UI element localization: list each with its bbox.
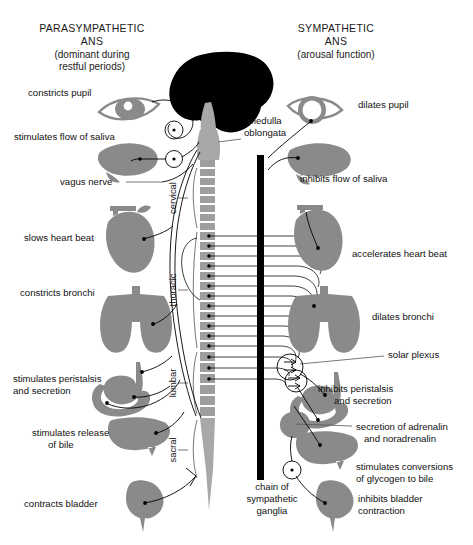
label-chain-line3: ganglia (257, 505, 289, 516)
gallbladder-left (116, 389, 134, 403)
lung-right-right-lobe (328, 294, 360, 353)
label-inhibits-peristalsis-line1: inhibits peristalsis (318, 383, 393, 394)
right-header-title-line1: SYMPATHETIC (298, 22, 375, 34)
bladder-shape-right (316, 480, 353, 532)
right-heart (294, 202, 343, 271)
right-eye-group (288, 96, 342, 124)
label-chain-line1: chain of (255, 481, 289, 492)
left-lungs (100, 286, 172, 353)
label-dilates-bronchi: dilates bronchi (372, 311, 434, 322)
left-bladder (126, 480, 163, 532)
left-header-sub-line1: (dominant during (54, 49, 129, 60)
spine-label-lumbar: lumbar (167, 369, 178, 398)
brain-group (169, 52, 273, 160)
label-vagus-nerve: vagus nerve (60, 176, 112, 187)
liver-shape-left (108, 417, 170, 456)
left-header-title-line1: PARASYMPATHETIC (39, 22, 145, 34)
left-header-title-line2: ANS (81, 35, 104, 47)
spine-label-sacral: sacral (167, 437, 178, 462)
label-medulla-line2: oblongata (244, 127, 287, 138)
right-lungs (288, 286, 360, 353)
sympathetic-chain-bar (257, 155, 264, 480)
right-eye-pupil-dilated (303, 101, 322, 120)
right-header: SYMPATHETIC ANS (arousal function) (297, 22, 374, 60)
left-digestive-group (92, 362, 150, 417)
solar-plexus-ganglia (277, 354, 307, 392)
left-liver (108, 417, 170, 456)
lung-left-lobe (100, 294, 132, 353)
label-accelerates-heart: accelerates heart beat (352, 248, 447, 259)
label-stimulates-bile-line2: of bile (48, 439, 74, 450)
label-inhibits-bladder-line2: contraction (358, 505, 405, 516)
label-stimulates-saliva: stimulates flow of saliva (14, 131, 115, 142)
spine-label-cervical: cervical (167, 182, 178, 214)
heart-shape-right (294, 202, 343, 271)
medulla-bulge (197, 130, 220, 160)
label-stimulates-peristalsis-line2: and secretion (13, 385, 71, 396)
left-eye-group (99, 98, 159, 120)
bladder-shape-left (126, 480, 163, 532)
label-adrenalin-line1: secretion of adrenalin (356, 421, 448, 432)
right-bladder (316, 480, 353, 532)
right-liver (296, 431, 358, 470)
left-header: PARASYMPATHETIC ANS (dominant during res… (39, 22, 145, 72)
label-inhibits-peristalsis-line2: and secretion (334, 395, 392, 406)
label-inhibits-bladder-line1: inhibits bladder (358, 493, 423, 504)
label-medulla-line1: medulla (248, 115, 282, 126)
liver-shape-right (296, 431, 358, 470)
label-dilates-pupil: dilates pupil (358, 99, 409, 110)
ans-illustration: PARASYMPATHETIC ANS (dominant during res… (0, 0, 473, 545)
label-glycogen-line1: stimulates conversions (356, 461, 453, 472)
label-constricts-pupil: constricts pupil (28, 87, 91, 98)
right-header-title-line2: ANS (325, 35, 348, 47)
label-contracts-bladder: contracts bladder (24, 498, 98, 509)
label-slows-heart-beat: slows heart beat (24, 232, 94, 243)
ans-diagram: PARASYMPATHETIC ANS (dominant during res… (0, 0, 473, 545)
spinal-cord-vertebrae (200, 160, 215, 510)
sacrum-coccyx (200, 418, 215, 510)
label-stimulates-peristalsis-line1: stimulates peristalsis (13, 373, 102, 384)
label-inhibits-saliva: inhibits flow of saliva (300, 173, 388, 184)
left-eye-pupil-constricted (124, 102, 133, 111)
ganglion-celiac-upper (277, 354, 303, 380)
label-solar-plexus: solar plexus (388, 349, 439, 360)
label-stimulates-bile-line1: stimulates release (32, 427, 109, 438)
right-header-sub-line1: (arousal function) (297, 49, 374, 60)
label-constricts-bronchi: constricts bronchi (20, 287, 95, 298)
lung-right-left-lobe (288, 294, 320, 353)
left-header-sub-line2: restful periods) (59, 61, 125, 72)
label-adrenalin-line2: and noradrenalin (364, 433, 436, 444)
label-chain-line2: sympathetic (246, 493, 297, 504)
label-glycogen-line2: of glycogen to bile (356, 473, 433, 484)
